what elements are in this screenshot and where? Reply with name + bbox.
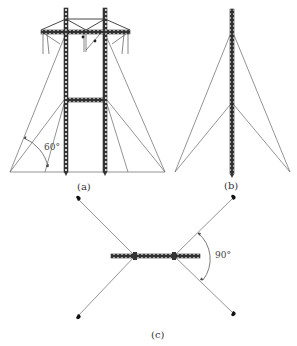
panel-a-label: (a)	[77, 181, 91, 192]
crossarm	[41, 30, 130, 34]
angle-60-label: 60°	[44, 142, 60, 152]
angle-90-label: 90°	[215, 250, 231, 260]
panel-c-plan-view	[76, 195, 236, 319]
panel-c-label: (c)	[151, 329, 164, 340]
guy-wires	[10, 38, 165, 172]
panel-b-single-mast	[175, 9, 290, 178]
tower-diagram	[0, 0, 297, 346]
mid-strut	[68, 98, 103, 102]
single-mast	[230, 9, 234, 174]
panel-b-label: (b)	[224, 180, 238, 191]
panel-a-portal-tower	[10, 8, 165, 176]
plan-crossbar	[111, 254, 200, 258]
